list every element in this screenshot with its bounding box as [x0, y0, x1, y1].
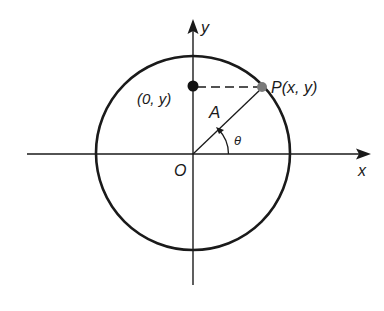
angle-label: θ [234, 133, 241, 148]
origin-label: O [174, 162, 186, 179]
point-proj-dot [188, 81, 199, 92]
point-p-label: P(x, y) [271, 79, 317, 96]
x-axis-label: x [357, 162, 367, 179]
point-p-dot [257, 82, 267, 92]
unit-circle-diagram: y x O P(x, y) (0, y) A θ [0, 0, 384, 311]
y-axis-label: y [200, 19, 210, 36]
radius-label: A [208, 103, 220, 122]
point-proj-label: (0, y) [137, 90, 171, 107]
